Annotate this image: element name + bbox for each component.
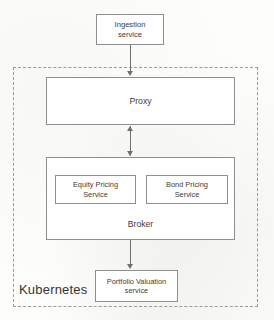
node-ingestion-service-label: Ingestion service xyxy=(113,20,148,39)
kubernetes-boundary-label: Kubernetes xyxy=(19,282,88,297)
connector-broker-to-portfolio-valuation xyxy=(130,240,131,265)
node-equity-pricing-service-label: Equity Pricing Service xyxy=(71,180,120,199)
node-proxy-label: Proxy xyxy=(128,96,154,107)
node-portfolio-valuation-service-label: Portfolio Valuation service xyxy=(105,277,168,296)
arrowhead-proxy-to-broker xyxy=(127,151,133,156)
node-bond-pricing-service: Bond Pricing Service xyxy=(146,175,228,204)
node-portfolio-valuation-service: Portfolio Valuation service xyxy=(95,270,178,302)
arrowhead-ingestion-to-proxy xyxy=(127,71,133,76)
arrowhead-broker-to-portfolio-valuation xyxy=(127,264,133,269)
node-broker-label: Broker xyxy=(47,219,234,230)
node-bond-pricing-service-label: Bond Pricing Service xyxy=(164,180,210,199)
node-equity-pricing-service: Equity Pricing Service xyxy=(55,175,136,204)
node-ingestion-service: Ingestion service xyxy=(96,14,164,45)
diagram-canvas: Kubernetes Ingestion service Proxy Broke… xyxy=(0,0,274,320)
arrowhead-broker-to-proxy xyxy=(127,126,133,131)
connector-ingestion-to-proxy xyxy=(130,45,131,72)
node-proxy: Proxy xyxy=(46,77,235,125)
